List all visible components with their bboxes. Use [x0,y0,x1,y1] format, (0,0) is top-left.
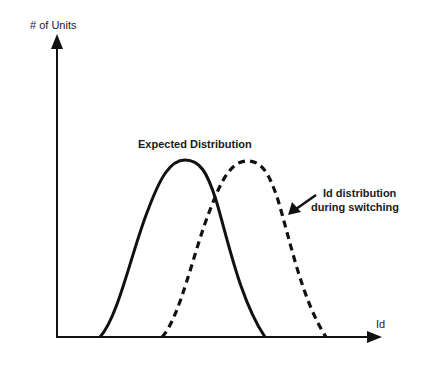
annotation-arrowhead-icon [288,202,301,215]
switching-distribution-label-line1: Id distribution [323,187,396,199]
x-axis-label: Id [376,318,385,330]
expected-distribution-label: Expected Distribution [138,138,252,150]
switching-distribution-curve [162,161,326,337]
y-axis-label: # of Units [30,19,76,31]
distribution-diagram [0,0,423,365]
y-axis-arrowhead-icon [51,34,63,49]
expected-distribution-curve [100,160,265,337]
switching-distribution-label-line2: during switching [311,201,399,213]
x-axis-arrowhead-icon [367,331,382,343]
